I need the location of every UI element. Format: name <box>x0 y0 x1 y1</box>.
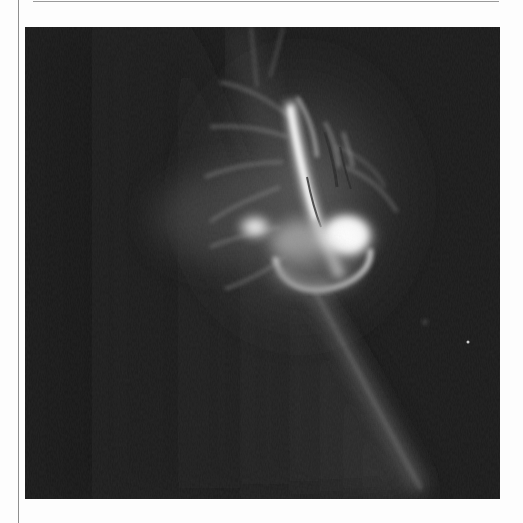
top-rule-divider <box>33 1 499 2</box>
figure-page <box>0 0 523 523</box>
solar-image-render <box>25 27 500 499</box>
left-rule-divider <box>18 0 19 523</box>
solar-flare-image <box>25 27 500 499</box>
